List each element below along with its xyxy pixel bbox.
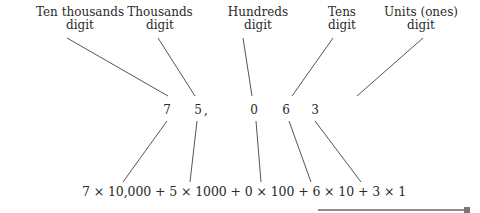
label-text: digit [328, 19, 356, 32]
line-units-label [357, 38, 423, 96]
line-thousands-term [190, 121, 197, 182]
label-tens: Tens digit [328, 6, 356, 32]
label-text: digit [36, 19, 124, 32]
line-tens-term [289, 121, 311, 182]
end-marker-icon [464, 207, 470, 213]
digit-units: 3 [311, 104, 319, 117]
line-hundreds-term [256, 121, 261, 182]
line-tens-label [292, 38, 333, 96]
line-thousands-label [158, 38, 195, 96]
label-text: digit [228, 19, 288, 32]
digit-ten-thousands: 7 [163, 104, 171, 117]
digit-tens: 6 [282, 104, 290, 117]
expanded-form: 7 × 10,000 + 5 × 1000 + 0 × 100 + 6 × 10… [82, 185, 406, 199]
label-ten-thousands: Ten thousands digit [36, 6, 124, 32]
place-value-diagram: Ten thousands digit Thousands digit Hund… [0, 0, 480, 213]
label-text: digit [384, 19, 458, 32]
line-ten-thousands-term [123, 121, 167, 182]
line-hundreds-label [243, 38, 252, 96]
digit-thousands: 5 [194, 104, 202, 117]
line-units-term [315, 121, 361, 182]
label-text: digit [127, 19, 193, 32]
label-thousands: Thousands digit [127, 6, 193, 32]
label-units: Units (ones) digit [384, 6, 458, 32]
digit-hundreds: 0 [250, 104, 258, 117]
label-hundreds: Hundreds digit [228, 6, 288, 32]
line-ten-thousands-label [67, 38, 168, 96]
thousands-separator: , [204, 104, 208, 117]
